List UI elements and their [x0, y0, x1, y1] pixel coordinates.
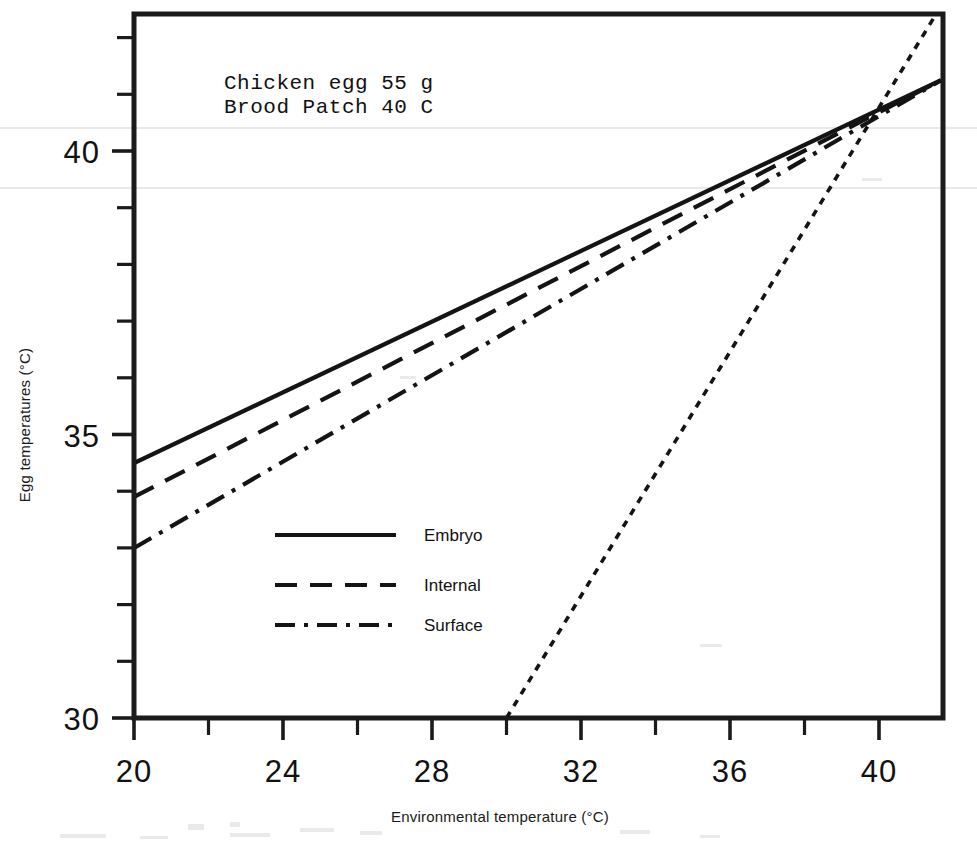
scan-artifact-speckles	[60, 178, 882, 839]
plot-frame	[134, 14, 943, 718]
legend-entry-embryo: Embryo	[275, 526, 483, 545]
x-tick-label-32: 32	[563, 754, 599, 789]
x-tick-label-28: 28	[414, 754, 450, 789]
y-tick-label-40: 40	[64, 135, 100, 170]
x-tick-label-24: 24	[265, 754, 301, 789]
y-tick-label-35: 35	[64, 419, 100, 454]
legend-label-embryo: Embryo	[424, 526, 483, 545]
series-line-internal	[134, 80, 941, 497]
annotation-line-1: Chicken egg 55 g	[224, 72, 434, 95]
legend-entry-surface: Surface	[275, 616, 483, 635]
x-tick-label-40: 40	[861, 754, 897, 789]
series-line-surface	[134, 80, 941, 548]
legend-label-surface: Surface	[424, 616, 483, 635]
x-tick-label-36: 36	[712, 754, 748, 789]
legend-label-internal: Internal	[424, 576, 481, 595]
x-tick-labels: 20 24 28 32 36 40	[116, 754, 897, 789]
y-axis-title: Egg temperatures (°C)	[16, 348, 33, 502]
figure-container: 20 24 28 32 36 40 40 35 30 Environmental…	[0, 0, 977, 849]
y-axis-ticks	[112, 38, 134, 718]
annotation-line-2: Brood Patch 40 C	[224, 96, 434, 119]
legend: Embryo Internal Surface	[275, 526, 483, 635]
chart-canvas: 20 24 28 32 36 40 40 35 30 Environmental…	[0, 0, 977, 849]
x-axis-title: Environmental temperature (°C)	[391, 808, 609, 825]
x-axis-ticks	[134, 718, 879, 740]
y-tick-labels: 40 35 30	[64, 135, 100, 737]
legend-entry-internal: Internal	[275, 576, 481, 595]
x-tick-label-20: 20	[116, 754, 152, 789]
y-tick-label-30: 30	[64, 702, 100, 737]
annotation-block: Chicken egg 55 g Brood Patch 40 C	[224, 72, 434, 119]
series-line-embryo	[134, 80, 941, 463]
